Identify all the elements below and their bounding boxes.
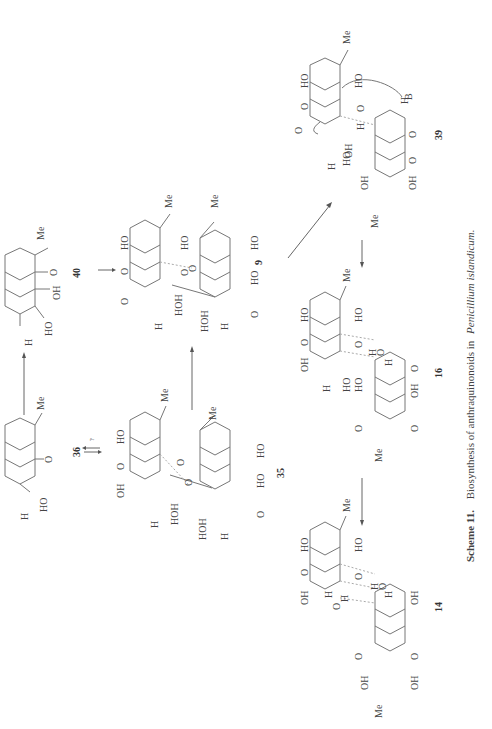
reaction-scheme: Me O OH HO H 40 Me O HO H 36 ? Me HO <box>0 0 492 729</box>
me-label: Me <box>373 704 384 718</box>
compound-label-14: 14 <box>433 602 444 612</box>
equilibrium-annotation: ? <box>89 438 95 441</box>
oh-label: OH <box>409 676 420 690</box>
o-label: O <box>175 459 186 466</box>
compound-label-40: 40 <box>71 268 82 278</box>
h-label: H <box>355 123 366 130</box>
oh-label: OH <box>409 384 420 398</box>
o-label: O <box>377 583 388 590</box>
h-label: H <box>23 339 34 346</box>
compound-36-structure <box>5 413 44 492</box>
o-label: O <box>115 463 126 470</box>
ho-label: HO <box>115 430 126 444</box>
h-label: H <box>383 359 394 366</box>
compound-label-39: 39 <box>433 130 444 140</box>
o-label: O <box>119 268 130 275</box>
ho-label: HO <box>353 378 364 392</box>
oh-label: OH <box>409 591 420 605</box>
ho-label: HO <box>43 322 54 336</box>
me-label: Me <box>341 268 352 282</box>
oh-label: OH <box>299 358 310 372</box>
o-label: O <box>407 131 418 138</box>
ho-label: HO <box>341 152 352 166</box>
caption-organism: Penicillium islandicum. <box>464 229 476 334</box>
o-label: O <box>43 456 54 463</box>
o-label: O <box>48 269 59 276</box>
h-label: H <box>383 591 394 598</box>
ho-label: HO <box>119 236 130 250</box>
me-label: Me <box>369 214 380 228</box>
h-label: H <box>339 595 350 602</box>
ho-label: HO <box>353 538 364 552</box>
oh-label: OH <box>115 484 126 498</box>
h-label: H <box>149 521 160 528</box>
ho-label: HO <box>299 74 310 88</box>
me-label: Me <box>341 498 352 512</box>
scheme-page: Me O OH HO H 40 Me O HO H 36 ? Me HO <box>0 0 492 729</box>
o-label: O <box>353 341 364 348</box>
me-label: Me <box>159 388 170 402</box>
o-label: O <box>409 365 420 372</box>
ho-label: HO <box>249 236 260 250</box>
o-label: O <box>249 311 260 318</box>
me-label: Me <box>209 194 220 208</box>
compound-9-structure <box>130 214 230 297</box>
hoh-label: HOH <box>199 310 210 332</box>
h-label: H <box>219 323 230 330</box>
compound-label-36: 36 <box>71 447 82 457</box>
compound-label-35: 35 <box>275 468 286 478</box>
o-label: O <box>375 349 386 356</box>
caption-scheme-label: Scheme 11. <box>464 510 476 562</box>
o-label: O <box>293 127 304 134</box>
me-label: Me <box>341 30 352 44</box>
o-label: O <box>331 603 342 610</box>
o-label: O <box>299 569 310 576</box>
compound-label-16: 16 <box>433 368 444 378</box>
ho-label: HO <box>249 271 260 285</box>
hoh-label: HOH <box>173 294 184 316</box>
hoh-label: HOH <box>197 518 208 540</box>
base-label: B <box>403 93 414 100</box>
hoh-label: HOH <box>169 503 180 525</box>
ho-label: HO <box>353 74 364 88</box>
compound-label-9: 9 <box>253 260 264 265</box>
o-label: O <box>353 425 364 432</box>
h-label: H <box>323 591 334 598</box>
ho-label: HO <box>353 308 364 322</box>
me-label: Me <box>373 448 384 462</box>
o-label: O <box>299 103 310 110</box>
caption-text: Biosynthesis of anthraquinonoids in <box>464 340 476 499</box>
oh-label: OH <box>407 176 418 190</box>
oh-label: OH <box>51 286 62 300</box>
o-label: O <box>355 105 366 112</box>
compound-40-structure <box>5 248 50 326</box>
ho-label: HO <box>179 236 190 250</box>
h-label: H <box>153 323 164 330</box>
figure-caption: Scheme 11. Biosynthesis of anthraquinono… <box>464 229 476 562</box>
me-label: Me <box>35 226 46 240</box>
h-label: H <box>326 163 337 170</box>
ho-label: HO <box>299 308 310 322</box>
ho-label: HO <box>255 444 266 458</box>
o-label: O <box>407 157 418 164</box>
h-label: H <box>19 513 30 520</box>
oh-label: OH <box>359 676 370 690</box>
o-label: O <box>409 425 420 432</box>
arrow-9-to-39 <box>288 205 330 258</box>
o-label: O <box>255 511 266 518</box>
o-bridge-label: O <box>187 265 198 272</box>
me-label: Me <box>35 396 46 410</box>
o-label: O <box>353 573 364 580</box>
compound-14-structure <box>310 516 405 651</box>
o-label: O <box>119 298 130 305</box>
o-label: O <box>299 339 310 346</box>
h-label: H <box>321 385 332 392</box>
me-label: Me <box>207 406 218 420</box>
ho-label: HO <box>255 474 266 488</box>
h-label: H <box>219 533 230 540</box>
oh-label: OH <box>299 591 310 605</box>
ho-label: HO <box>299 538 310 552</box>
o-label: O <box>409 653 420 660</box>
compound-16-structure <box>310 286 405 419</box>
me-label: Me <box>163 194 174 208</box>
